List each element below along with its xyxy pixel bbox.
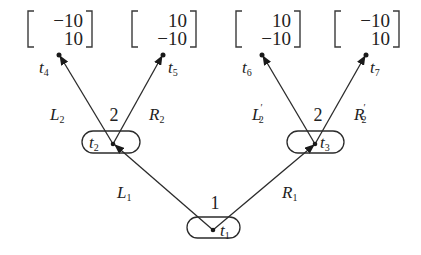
payoff-t6: 10 −10 xyxy=(236,10,300,49)
node-t4 xyxy=(57,53,62,58)
left-bracket xyxy=(335,11,341,47)
action-label-R2: R2 xyxy=(148,105,164,125)
payoff-player2: 10 xyxy=(371,28,390,49)
right-bracket xyxy=(393,11,399,47)
player-label-t3: 2 xyxy=(314,105,323,125)
left-bracket xyxy=(132,11,138,47)
node-t5 xyxy=(161,53,166,58)
payoff-t7: −10 10 xyxy=(335,10,399,49)
label-t7: t7 xyxy=(370,58,380,78)
node-t6 xyxy=(260,53,265,58)
node-t7 xyxy=(364,53,369,58)
label-t1: t1 xyxy=(220,221,230,241)
label-t5: t5 xyxy=(168,58,178,78)
right-bracket xyxy=(294,11,300,47)
label-t3: t3 xyxy=(320,133,330,153)
payoff-t4: −10 10 xyxy=(28,10,92,49)
label-t6: t6 xyxy=(242,58,252,78)
node-t3 xyxy=(313,142,318,147)
player-label-root: 1 xyxy=(211,193,220,213)
label-t4: t4 xyxy=(39,58,49,78)
node-t2 xyxy=(111,142,116,147)
game-tree-diagram: −10 10 10 −10 10 −10 −10 10 t1 t2 t3 t4 xyxy=(0,0,421,255)
left-bracket xyxy=(236,11,242,47)
payoff-player2: 10 xyxy=(64,28,83,49)
right-bracket xyxy=(86,11,92,47)
action-label-R1: R1 xyxy=(281,183,297,203)
label-t2: t2 xyxy=(89,133,99,153)
info-set-t1 xyxy=(187,217,240,238)
left-bracket xyxy=(28,11,34,47)
payoff-t5: 10 −10 xyxy=(132,10,196,49)
action-label-L1: L1 xyxy=(116,183,131,203)
payoff-player2: −10 xyxy=(261,28,291,49)
player-label-t2: 2 xyxy=(110,105,119,125)
node-t1 xyxy=(211,228,216,233)
right-bracket xyxy=(190,11,196,47)
payoff-player2: −10 xyxy=(157,28,187,49)
action-label-R2-prime: R′2 xyxy=(353,102,367,125)
action-label-L2: L2 xyxy=(49,105,64,125)
action-label-L2-prime: L′2 xyxy=(251,102,264,125)
